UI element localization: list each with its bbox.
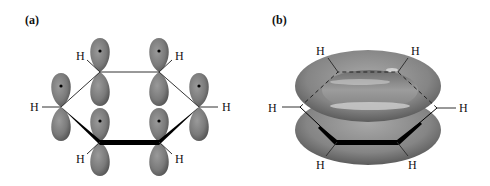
panel-a-molecule: H H H H H H xyxy=(30,38,231,176)
hydrogen-label: H xyxy=(268,101,277,115)
hydrogen-label: H xyxy=(316,158,325,172)
hydrogen-label: H xyxy=(76,152,85,166)
benzene-diagram: H H H H H H H H H H H H xyxy=(0,0,490,186)
hydrogen-label: H xyxy=(459,101,468,115)
hydrogen-label: H xyxy=(175,49,184,63)
hydrogen-label: H xyxy=(30,100,39,114)
hydrogen-label: H xyxy=(408,158,417,172)
hydrogen-label: H xyxy=(316,44,325,58)
hydrogen-label: H xyxy=(76,49,85,63)
panel-b-molecule: H H H H H H xyxy=(268,44,468,172)
hydrogen-label: H xyxy=(222,100,231,114)
hydrogen-label: H xyxy=(411,44,420,58)
hydrogen-label: H xyxy=(175,152,184,166)
